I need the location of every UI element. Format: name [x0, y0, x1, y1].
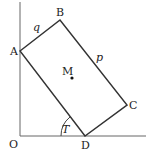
- side-label-q: q: [33, 21, 40, 34]
- angle-label-t: T: [62, 123, 71, 136]
- diagram-svg: A B C D O M q p T: [0, 0, 151, 157]
- label-m: M: [62, 65, 73, 78]
- side-label-p: p: [96, 51, 103, 64]
- rectangle-diagram: A B C D O M q p T: [0, 0, 151, 157]
- label-c: C: [129, 99, 137, 112]
- label-o: O: [9, 138, 18, 151]
- label-b: B: [56, 6, 64, 19]
- label-a: A: [9, 45, 19, 58]
- label-d: D: [81, 139, 90, 152]
